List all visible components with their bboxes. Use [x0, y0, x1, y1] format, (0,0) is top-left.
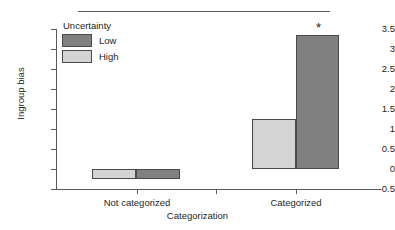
x-axis-line	[56, 189, 380, 190]
significance-asterisk: *	[297, 21, 340, 34]
x-tick-not-categorized	[137, 189, 138, 194]
y-tick-label-1: 1	[349, 124, 395, 134]
x-tick-label-not-categorized: Not categorized	[82, 197, 192, 208]
y-tick-label--0.5: -0.5	[349, 184, 395, 194]
y-tick-3.5	[51, 29, 56, 30]
y-tick-label-2: 2	[349, 84, 395, 94]
legend-swatch-low	[62, 34, 92, 47]
x-tick-middle	[216, 189, 217, 194]
y-tick-2.5	[51, 69, 56, 70]
y-tick-label-1.5: 1.5	[349, 104, 395, 114]
header-divider	[78, 11, 330, 12]
legend-item-low: Low	[62, 34, 119, 47]
legend-label-high: High	[99, 51, 119, 62]
y-tick-label-3.5: 3.5	[349, 24, 395, 34]
legend-title: Uncertainty	[62, 20, 119, 31]
legend: Uncertainty Low High	[62, 20, 119, 66]
y-tick-label-0: 0	[349, 164, 395, 174]
y-tick-2	[51, 89, 56, 90]
x-tick-categorized	[296, 189, 297, 194]
y-tick-label-2.5: 2.5	[349, 64, 395, 74]
x-tick-label-categorized: Categorized	[246, 197, 346, 208]
y-tick-1	[51, 129, 56, 130]
y-axis-line	[56, 29, 57, 189]
x-axis-title: Categorization	[0, 210, 395, 221]
legend-item-high: High	[62, 50, 119, 63]
legend-swatch-high	[62, 50, 92, 63]
legend-label-low: Low	[99, 35, 116, 46]
y-axis-title: Ingroup bias	[15, 34, 26, 154]
bar-categorized-high	[252, 119, 296, 169]
y-tick-label-0.5: 0.5	[349, 144, 395, 154]
bar-not-categorized-low	[136, 169, 180, 179]
y-tick-1.5	[51, 109, 56, 110]
bar-categorized-low	[296, 35, 339, 169]
chart-figure: Uncertainty Low High 3.5 3 2.5 2 1.5 1 0…	[0, 0, 395, 230]
y-tick-0	[51, 169, 56, 170]
y-tick-label-3: 3	[349, 44, 395, 54]
bar-not-categorized-high	[92, 169, 136, 179]
y-tick-0.5	[51, 149, 56, 150]
y-tick-3	[51, 49, 56, 50]
y-tick--0.5	[51, 189, 56, 190]
